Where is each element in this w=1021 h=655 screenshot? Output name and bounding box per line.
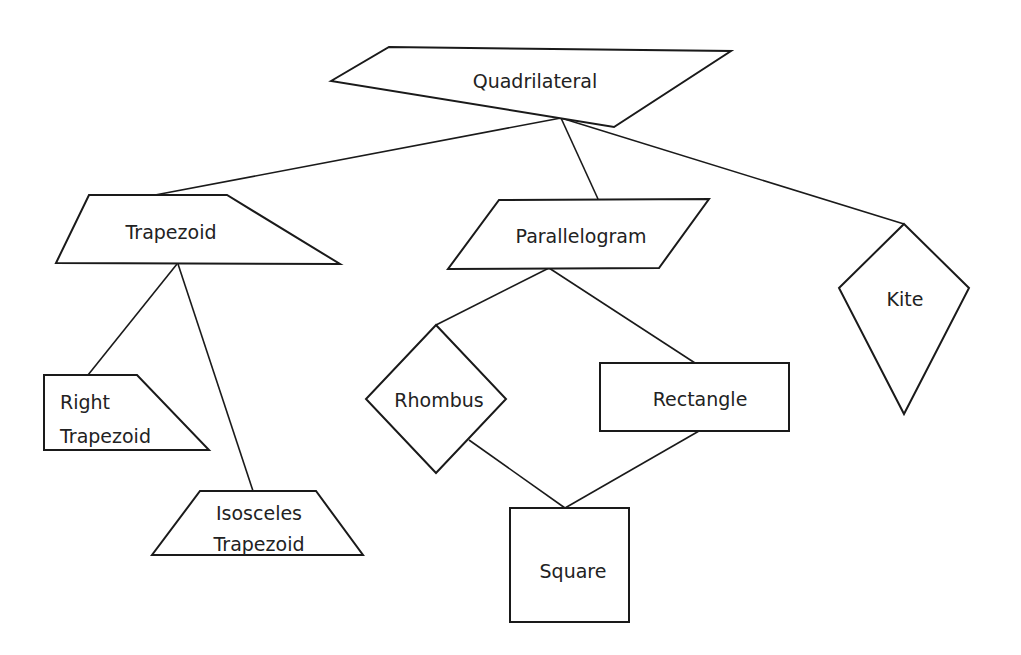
edge-trapezoid-isosceles-trapezoid	[178, 264, 253, 491]
quadrilateral-hierarchy-diagram: Quadrilateral Trapezoid Parallelogram Ki…	[0, 0, 1021, 655]
quadrilateral-label: Quadrilateral	[473, 70, 598, 92]
edge-trapezoid-right-trapezoid	[88, 264, 177, 375]
node-parallelogram: Parallelogram	[448, 199, 709, 269]
edge-parallelogram-rhombus	[436, 268, 549, 325]
edge-parallelogram-rectangle	[549, 268, 695, 363]
node-quadrilateral: Quadrilateral	[331, 47, 731, 127]
right-trapezoid-label-line1: Right	[60, 391, 110, 413]
node-kite: Kite	[839, 224, 969, 414]
isosceles-trapezoid-label-line2: Trapezoid	[213, 533, 305, 555]
node-rectangle: Rectangle	[600, 363, 789, 431]
edge-rhombus-square	[469, 440, 565, 508]
trapezoid-label: Trapezoid	[125, 221, 217, 243]
node-isosceles-trapezoid: Isosceles Trapezoid	[152, 491, 363, 555]
rectangle-label: Rectangle	[653, 388, 748, 410]
node-right-trapezoid: Right Trapezoid	[44, 375, 209, 450]
rhombus-label: Rhombus	[394, 389, 483, 411]
edge-quadrilateral-parallelogram	[561, 118, 598, 199]
square-label: Square	[540, 560, 607, 582]
edge-rectangle-square	[565, 431, 699, 508]
kite-shape	[839, 224, 969, 414]
isosceles-trapezoid-label-line1: Isosceles	[216, 502, 302, 524]
node-trapezoid: Trapezoid	[56, 195, 340, 264]
parallelogram-label: Parallelogram	[516, 225, 647, 247]
edge-quadrilateral-trapezoid	[155, 118, 561, 195]
kite-label: Kite	[887, 288, 924, 310]
edges	[88, 118, 904, 508]
node-square: Square	[510, 508, 629, 622]
right-trapezoid-label-line2: Trapezoid	[59, 425, 151, 447]
